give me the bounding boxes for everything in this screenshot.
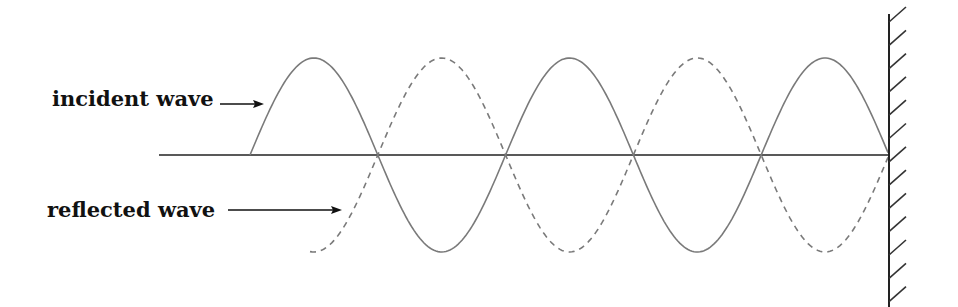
wall-hatch-mark [889,193,906,208]
wall-hatch-mark [889,30,906,45]
wall-hatch-mark [889,287,906,302]
incident-wave-label-group: incident wave [52,86,264,111]
wall-hatch-mark [889,7,906,22]
wall-hatch-mark [889,217,906,232]
reflecting-wall [889,7,906,307]
wall-hatch-mark [889,240,906,255]
wall-hatch-mark [889,263,906,278]
reflected-wave-label: reflected wave [47,197,215,222]
reflected-wave-label-group: reflected wave [47,197,342,222]
incident-wave-label: incident wave [52,86,214,111]
wall-hatch-mark [889,54,906,69]
wall-hatch-mark [889,124,906,139]
wall-hatch-mark [889,77,906,92]
standing-wave-reflection-diagram: incident wave reflected wave [0,0,958,307]
wall-hatch-mark [889,100,906,115]
wall-hatching [889,7,906,302]
wall-hatch-mark [889,147,906,162]
wall-hatch-mark [889,170,906,185]
